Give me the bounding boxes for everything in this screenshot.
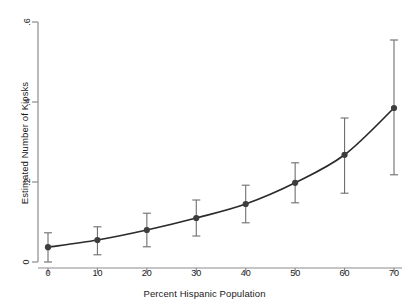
x-tick-label-10: 10 [92,268,102,278]
x-axis-title: Percent Hispanic Population [0,288,409,299]
x-tick-label-70: 70 [389,268,399,278]
axes [32,22,402,274]
x-tick-label-40: 40 [241,268,251,278]
y-axis-title: Estimated Number of Kiosks [19,82,30,204]
x-tick-label-0: 0 [45,268,50,278]
x-tick-label-30: 30 [191,268,201,278]
y-tick-label-0: 0 [21,259,31,264]
plot-area [0,0,409,307]
x-tick-label-50: 50 [290,268,300,278]
y-axis-title-wrap: Estimated Number of Kiosks [14,28,32,258]
kiosk-estimate-chart: 0.2.4.6 010203040506070 Estimated Number… [0,0,409,307]
x-tick-label-20: 20 [142,268,152,278]
error-bars [44,40,398,262]
y-tick-label-p6: .6 [22,18,32,26]
x-tick-label-60: 60 [340,268,350,278]
